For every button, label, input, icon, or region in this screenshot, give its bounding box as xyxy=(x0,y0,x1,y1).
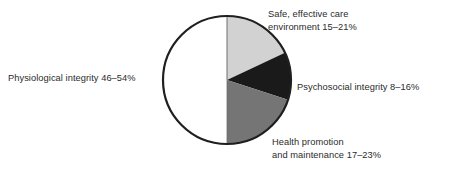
pie-label-physiological-integrity: Physiological integrity 46–54% xyxy=(8,72,168,85)
pie-slice-physiological-integrity[interactable] xyxy=(163,16,227,144)
pie-chart-figure: Physiological integrity 46–54% Safe, eff… xyxy=(0,0,449,173)
pie-label-health-promotion: Health promotion and maintenance 17–23% xyxy=(272,136,432,161)
pie-label-psychosocial-integrity: Psychosocial integrity 8–16% xyxy=(297,81,447,94)
pie-label-safe-effective-care: Safe, effective care environment 15–21% xyxy=(268,8,418,33)
